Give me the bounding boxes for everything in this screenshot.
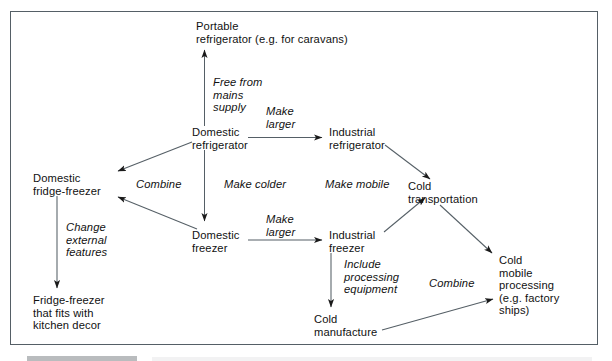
node-industrial-freezer: Industrial freezer: [329, 229, 429, 254]
figure-page: Portable refrigerator (e.g. for caravans…: [0, 0, 612, 361]
edge-label-combine-right: Combine: [429, 277, 509, 290]
edge-label-make-colder: Make colder: [224, 178, 324, 191]
node-industrial-refrigerator: Industrial refrigerator: [329, 126, 439, 151]
node-portable-refrigerator: Portable refrigerator (e.g. for caravans…: [196, 20, 396, 45]
caption-text-ghost: [152, 357, 592, 361]
node-cold-manufacture: Cold manufacture: [314, 313, 434, 338]
node-fridge-freezer-kitchen-decor: Fridge-freezer that fits with kitchen de…: [33, 294, 153, 332]
caption-strip: [27, 356, 137, 361]
edge-label-make-mobile: Make mobile: [325, 178, 425, 191]
node-cold-mobile-processing: Cold mobile processing (e.g. factory shi…: [499, 254, 599, 317]
edge-label-make-larger-bottom: Make larger: [266, 213, 336, 238]
edge-label-combine-left: Combine: [136, 178, 216, 191]
node-cold-transportation: Cold transportation: [408, 180, 528, 205]
edge-label-make-larger-top: Make larger: [266, 105, 336, 130]
node-domestic-fridge-freezer: Domestic fridge-freezer: [33, 172, 153, 197]
edge-label-change-external-features: Change external features: [66, 221, 156, 259]
